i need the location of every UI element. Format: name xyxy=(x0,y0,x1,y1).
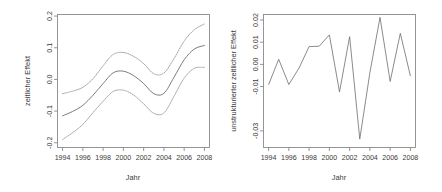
y-tick-label: -0.03 xyxy=(252,123,260,139)
x-tick-label: 1998 xyxy=(95,154,111,162)
left-plot-svg: 19941996199820002002200420062008 -0.2-0.… xyxy=(0,0,221,192)
x-tick-label: 2006 xyxy=(382,154,398,162)
y-tick-label: 0.02 xyxy=(252,13,260,27)
y-tick-label: 0.2 xyxy=(46,11,54,21)
y-tick-label: 0.0 xyxy=(46,74,54,84)
x-tick-label: 1998 xyxy=(301,154,317,162)
x-tick-label: 2002 xyxy=(342,154,358,162)
right-plot-frame xyxy=(264,15,416,148)
x-tick-label: 1994 xyxy=(55,154,71,162)
x-tick-label: 2006 xyxy=(176,154,192,162)
figure-container: 19941996199820002002200420062008 -0.2-0.… xyxy=(0,0,442,192)
y-tick-label: -0.2 xyxy=(46,137,54,149)
x-tick-label: 2000 xyxy=(115,154,131,162)
x-tick-label: 2000 xyxy=(321,154,337,162)
right-y-axis-title: unstrukturierter zeitlicher Effekt xyxy=(229,30,238,132)
chart-panel-left: 19941996199820002002200420062008 -0.2-0.… xyxy=(0,0,221,192)
right-x-axis-title: Jahr xyxy=(332,173,347,182)
right-y-axis-ticks: -0.03-0.010.000.010.02 xyxy=(252,13,263,139)
right-x-axis-ticks: 19941996199820002002200420062008 xyxy=(261,148,419,162)
x-tick-label: 1994 xyxy=(261,154,277,162)
x-tick-label: 1996 xyxy=(75,154,91,162)
right-plot-region xyxy=(264,15,416,148)
x-tick-label: 2002 xyxy=(136,154,152,162)
left-y-axis-title: zeitlicher Effekt xyxy=(23,56,32,106)
left-x-axis-title: Jahr xyxy=(126,173,141,182)
x-tick-label: 2004 xyxy=(156,154,172,162)
left-plot-region xyxy=(58,15,210,148)
x-tick-label: 1996 xyxy=(281,154,297,162)
y-tick-label: 0.01 xyxy=(252,35,260,49)
y-tick-label: -0.1 xyxy=(46,105,54,117)
y-tick-label: -0.01 xyxy=(252,78,260,94)
left-plot-frame xyxy=(58,15,210,148)
x-tick-label: 2008 xyxy=(197,154,213,162)
right-effect-series xyxy=(269,17,411,139)
left-y-axis-ticks: -0.2-0.10.00.10.2 xyxy=(46,11,57,149)
chart-panel-right: 19941996199820002002200420062008 -0.03-0… xyxy=(221,0,442,192)
left-x-axis-ticks: 19941996199820002002200420062008 xyxy=(55,148,213,162)
y-tick-label: 0.1 xyxy=(46,43,54,53)
right-plot-svg: 19941996199820002002200420062008 -0.03-0… xyxy=(221,0,442,192)
x-tick-label: 2004 xyxy=(362,154,378,162)
y-tick-label: 0.00 xyxy=(252,57,260,71)
left-lower-confidence-band xyxy=(63,67,205,139)
left-upper-confidence-band xyxy=(63,24,205,94)
x-tick-label: 2008 xyxy=(403,154,419,162)
